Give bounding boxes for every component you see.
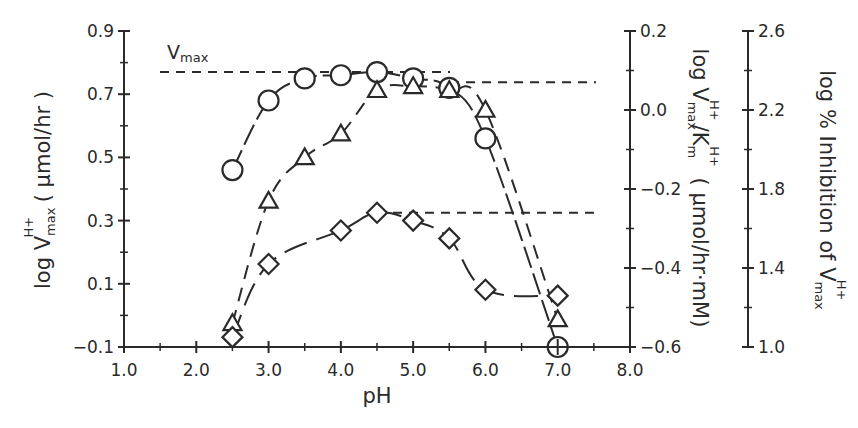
- diamond-series-line: [232, 212, 557, 337]
- triangle-marker: [476, 101, 494, 117]
- left-tick-label: 0.5: [87, 147, 114, 167]
- x-tick-label: 5.0: [400, 360, 427, 380]
- diamond-marker: [367, 203, 387, 223]
- right-tick-label: 2.2: [758, 100, 785, 120]
- middle-tick-label: −0.6: [640, 337, 681, 357]
- x-tick-label: 7.0: [544, 360, 571, 380]
- middle-tick-label: 0.0: [640, 100, 667, 120]
- x-tick-label: 1.0: [110, 360, 137, 380]
- diamond-marker: [548, 286, 568, 306]
- triangle-marker: [296, 148, 314, 164]
- x-tick-label: 2.0: [183, 360, 210, 380]
- right-tick-label: 2.6: [758, 21, 785, 41]
- middle-tick-label: −0.4: [640, 258, 681, 278]
- circle-marker: [475, 128, 495, 148]
- circle-marker: [259, 91, 279, 111]
- diamond-marker: [475, 280, 495, 300]
- middle-tick-label: −0.2: [640, 179, 681, 199]
- circle-marker: [295, 68, 315, 88]
- middle-tick-label: 0.2: [640, 21, 667, 41]
- triangle-marker: [368, 81, 386, 97]
- triangle-marker: [260, 192, 278, 208]
- left-tick-label: 0.1: [87, 274, 114, 294]
- left-tick-label: 0.9: [87, 21, 114, 41]
- circle-marker: [331, 65, 351, 85]
- middle-axis-title: log VmaxH+/KmH+ ( μmol/hr·mM): [685, 49, 722, 328]
- right-tick-label: 1.0: [758, 337, 785, 357]
- circle-series-line: [232, 72, 557, 347]
- right-tick-label: 1.4: [758, 258, 785, 278]
- vmax-annotation: Vmax: [167, 41, 209, 65]
- circle-marker: [222, 160, 242, 180]
- x-tick-label: 8.0: [616, 360, 643, 380]
- x-tick-label: 6.0: [472, 360, 499, 380]
- left-tick-label: 0.3: [87, 211, 114, 231]
- left-tick-label: −0.1: [73, 337, 114, 357]
- left-axis-title: log VmaxH+ ( μmol/hr ): [21, 91, 58, 289]
- right-axis-title: log % Inhibition of VmaxH+: [812, 70, 849, 310]
- chart: 1.02.03.04.05.06.07.08.0−0.10.10.30.50.7…: [0, 0, 858, 428]
- right-tick-label: 1.8: [758, 179, 785, 199]
- axes: 1.02.03.04.05.06.07.08.0−0.10.10.30.50.7…: [73, 21, 785, 380]
- diamond-marker: [331, 220, 351, 240]
- triangle-marker: [549, 310, 567, 326]
- x-tick-label: 3.0: [255, 360, 282, 380]
- x-tick-label: 4.0: [327, 360, 354, 380]
- series-lines: [232, 72, 557, 347]
- series-markers: [222, 62, 567, 357]
- diamond-marker: [439, 228, 459, 248]
- x-axis-title: pH: [362, 384, 391, 408]
- left-tick-label: 0.7: [87, 84, 114, 104]
- diamond-marker: [403, 211, 423, 231]
